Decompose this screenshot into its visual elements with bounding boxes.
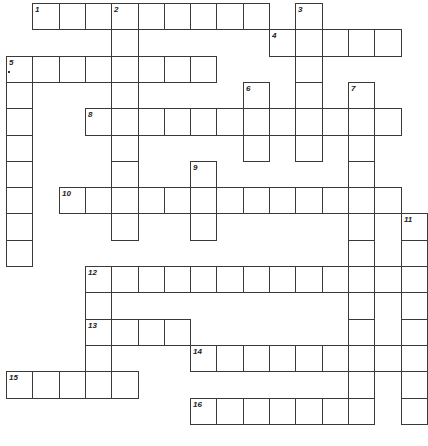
- crossword-cell[interactable]: [295, 345, 323, 372]
- crossword-cell[interactable]: [348, 29, 375, 57]
- crossword-cell[interactable]: [164, 3, 191, 30]
- crossword-cell[interactable]: [138, 3, 165, 30]
- crossword-cell[interactable]: [111, 29, 139, 57]
- crossword-cell[interactable]: [348, 292, 375, 320]
- crossword-cell[interactable]: [216, 108, 244, 136]
- crossword-cell[interactable]: [374, 266, 402, 293]
- crossword-cell[interactable]: [190, 187, 217, 214]
- crossword-cell[interactable]: [190, 56, 217, 83]
- crossword-cell[interactable]: [401, 292, 428, 320]
- crossword-cell[interactable]: [243, 187, 270, 214]
- crossword-cell[interactable]: [85, 187, 112, 214]
- crossword-cell[interactable]: 9: [190, 161, 217, 188]
- crossword-cell[interactable]: [401, 240, 428, 267]
- crossword-cell[interactable]: [348, 187, 375, 214]
- crossword-cell[interactable]: [6, 213, 33, 241]
- crossword-cell[interactable]: 2: [111, 3, 139, 30]
- crossword-cell[interactable]: [216, 266, 244, 293]
- crossword-cell[interactable]: 10: [59, 187, 86, 214]
- crossword-cell[interactable]: [322, 187, 349, 214]
- crossword-cell[interactable]: [401, 319, 428, 346]
- crossword-cell[interactable]: [216, 345, 244, 372]
- crossword-cell[interactable]: [164, 319, 191, 346]
- crossword-cell[interactable]: [243, 108, 270, 136]
- crossword-cell[interactable]: [111, 187, 139, 214]
- crossword-cell[interactable]: 14: [190, 345, 217, 372]
- crossword-cell[interactable]: [85, 345, 112, 372]
- crossword-cell[interactable]: [32, 56, 60, 83]
- crossword-cell[interactable]: 16: [190, 398, 217, 425]
- crossword-cell[interactable]: [348, 240, 375, 267]
- crossword-cell[interactable]: [111, 371, 139, 399]
- crossword-cell[interactable]: [111, 56, 139, 83]
- crossword-cell[interactable]: [295, 187, 323, 214]
- crossword-cell[interactable]: [295, 29, 323, 57]
- crossword-cell[interactable]: [85, 292, 112, 320]
- crossword-cell[interactable]: [6, 187, 33, 214]
- crossword-cell[interactable]: 11: [401, 213, 428, 241]
- crossword-cell[interactable]: [374, 108, 402, 136]
- crossword-cell[interactable]: [243, 3, 270, 30]
- crossword-cell[interactable]: 12: [85, 266, 112, 293]
- crossword-cell[interactable]: [348, 213, 375, 241]
- crossword-cell[interactable]: 4: [269, 29, 296, 57]
- crossword-cell[interactable]: [85, 56, 112, 83]
- crossword-cell[interactable]: [164, 187, 191, 214]
- crossword-cell[interactable]: [164, 108, 191, 136]
- crossword-cell[interactable]: [6, 135, 33, 162]
- crossword-cell[interactable]: [348, 108, 375, 136]
- crossword-cell[interactable]: [295, 56, 323, 83]
- crossword-cell[interactable]: [348, 135, 375, 162]
- crossword-cell[interactable]: [269, 398, 296, 425]
- crossword-cell[interactable]: [190, 108, 217, 136]
- crossword-cell[interactable]: [243, 345, 270, 372]
- crossword-cell[interactable]: [190, 3, 217, 30]
- crossword-cell[interactable]: [401, 398, 428, 425]
- crossword-cell[interactable]: [59, 3, 86, 30]
- crossword-cell[interactable]: [348, 319, 375, 346]
- crossword-cell[interactable]: [348, 371, 375, 399]
- crossword-cell[interactable]: [164, 56, 191, 83]
- crossword-cell[interactable]: [322, 29, 349, 57]
- crossword-cell[interactable]: [216, 398, 244, 425]
- crossword-cell[interactable]: [138, 108, 165, 136]
- crossword-cell[interactable]: 5: [6, 56, 33, 83]
- crossword-cell[interactable]: [401, 371, 428, 399]
- crossword-cell[interactable]: [295, 108, 323, 136]
- crossword-cell[interactable]: [138, 187, 165, 214]
- crossword-cell[interactable]: [216, 3, 244, 30]
- crossword-cell[interactable]: [322, 345, 349, 372]
- crossword-cell[interactable]: [269, 345, 296, 372]
- crossword-cell[interactable]: 13: [85, 319, 112, 346]
- crossword-cell[interactable]: 7: [348, 82, 375, 109]
- crossword-cell[interactable]: [295, 135, 323, 162]
- crossword-cell[interactable]: [348, 345, 375, 372]
- crossword-cell[interactable]: [6, 161, 33, 188]
- crossword-cell[interactable]: [322, 266, 349, 293]
- crossword-cell[interactable]: [111, 135, 139, 162]
- crossword-cell[interactable]: [190, 213, 217, 241]
- crossword-cell[interactable]: [85, 3, 112, 30]
- crossword-cell[interactable]: [111, 161, 139, 188]
- crossword-cell[interactable]: 15: [6, 371, 33, 399]
- crossword-cell[interactable]: [243, 398, 270, 425]
- crossword-cell[interactable]: [374, 187, 402, 214]
- crossword-cell[interactable]: [138, 319, 165, 346]
- crossword-cell[interactable]: [348, 161, 375, 188]
- crossword-cell[interactable]: 6: [243, 82, 270, 109]
- crossword-cell[interactable]: [6, 108, 33, 136]
- crossword-cell[interactable]: [111, 108, 139, 136]
- crossword-cell[interactable]: [295, 266, 323, 293]
- crossword-cell[interactable]: [59, 371, 86, 399]
- crossword-cell[interactable]: [111, 82, 139, 109]
- crossword-cell[interactable]: [269, 108, 296, 136]
- crossword-cell[interactable]: 3: [295, 3, 323, 30]
- crossword-cell[interactable]: [243, 135, 270, 162]
- crossword-cell[interactable]: [295, 82, 323, 109]
- crossword-cell[interactable]: [6, 82, 33, 109]
- crossword-cell[interactable]: [322, 108, 349, 136]
- crossword-cell[interactable]: [59, 56, 86, 83]
- crossword-cell[interactable]: [85, 371, 112, 399]
- crossword-cell[interactable]: [401, 266, 428, 293]
- crossword-cell[interactable]: 8: [85, 108, 112, 136]
